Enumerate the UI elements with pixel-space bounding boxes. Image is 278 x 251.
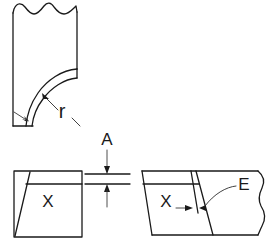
right-part-slant-line-1 [191, 171, 198, 213]
mating-part-right-view: X E [142, 171, 265, 235]
left-part-chamfer-line [15, 172, 30, 236]
radius-detail-view: r [13, 3, 80, 126]
edge-label-leader-line [205, 186, 236, 206]
gap-dimension-A: A [85, 130, 130, 207]
right-part-label-X: X [160, 192, 171, 211]
drawing-canvas: r A X [0, 0, 278, 251]
right-part-left-edge [142, 171, 152, 235]
radius-label: r [59, 100, 66, 122]
edge-dim-arrowhead-left [185, 205, 193, 211]
break-line-top [13, 3, 77, 14]
technical-drawing-svg: r A X [0, 0, 278, 251]
break-line-right [258, 171, 265, 235]
radius-origin-tick [14, 112, 28, 121]
radius-label-tail [72, 118, 80, 126]
left-part-label-X: X [42, 192, 53, 211]
fillet-inner-arc [32, 78, 77, 126]
gap-arrowhead-upper [104, 166, 110, 174]
mating-part-left-view: X [14, 171, 82, 237]
right-part-slant-line-2 [196, 171, 213, 235]
edge-label-E: E [238, 175, 249, 194]
gap-label-A: A [101, 130, 113, 149]
